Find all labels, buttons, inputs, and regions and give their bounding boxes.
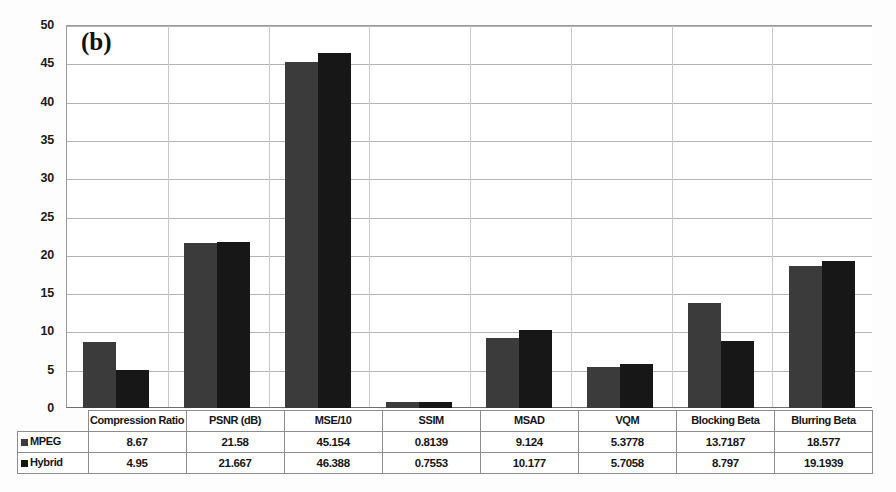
chart-plot-wrapper: 05101520253035404550 (b) (0, 10, 896, 410)
bar-hybrid-vqm (620, 364, 653, 408)
legend-item-hybrid: Hybrid (18, 453, 89, 474)
legend-swatch-icon (21, 460, 28, 467)
table-cell-hybrid-blurring-beta: 19.1939 (774, 453, 872, 474)
bar-hybrid-ssim (419, 402, 452, 408)
legend-item-mpeg: MPEG (18, 432, 89, 453)
bar-hybrid-blocking-beta (721, 341, 754, 408)
bar-hybrid-compression-ratio (116, 370, 149, 408)
bar-mpeg-vqm (587, 367, 620, 408)
table-cell-hybrid-compression-ratio: 4.95 (88, 453, 186, 474)
table-header-mse-10: MSE/10 (284, 411, 382, 432)
y-axis-tick-40: 40 (40, 95, 54, 109)
y-axis-tick-35: 35 (40, 133, 54, 147)
bar-group (570, 25, 671, 408)
bar-hybrid-msad (519, 330, 552, 408)
table-header-compression-ratio: Compression Ratio (88, 411, 186, 432)
table-cell-hybrid-ssim: 0.7553 (382, 453, 480, 474)
data-table: Compression RatioPSNR (dB)MSE/10SSIMMSAD… (17, 410, 873, 474)
table-row: Hybrid4.9521.66746.3880.755310.1775.7058… (18, 453, 873, 474)
bar-mpeg-msad (486, 338, 519, 408)
y-axis-tick-50: 50 (40, 18, 54, 32)
table-cell-hybrid-vqm: 5.7058 (578, 453, 676, 474)
data-table-body: Compression RatioPSNR (dB)MSE/10SSIMMSAD… (18, 411, 873, 474)
figure-panel-b: 05101520253035404550 (b) Compression Rat… (0, 0, 896, 492)
bar-mpeg-compression-ratio (83, 342, 116, 408)
bar-group (268, 25, 369, 408)
table-header-msad: MSAD (480, 411, 578, 432)
table-cell-mpeg-blocking-beta: 13.7187 (676, 432, 774, 453)
table-cell-mpeg-blurring-beta: 18.577 (774, 432, 872, 453)
y-axis-tick-5: 5 (47, 363, 54, 377)
table-header-row: Compression RatioPSNR (dB)MSE/10SSIMMSAD… (18, 411, 873, 432)
y-axis-tick-10: 10 (40, 324, 54, 338)
bar-hybrid-psnr-db- (217, 242, 250, 408)
bar-group (469, 25, 570, 408)
legend-label: MPEG (30, 435, 61, 447)
bar-hybrid-blurring-beta (822, 261, 855, 408)
table-cell-mpeg-vqm: 5.3778 (578, 432, 676, 453)
legend-swatch-icon (21, 439, 28, 446)
bar-group (66, 25, 167, 408)
table-header-blurring-beta: Blurring Beta (774, 411, 872, 432)
y-axis-tick-45: 45 (40, 56, 54, 70)
y-axis-tick-25: 25 (40, 210, 54, 224)
bar-group (167, 25, 268, 408)
table-cell-hybrid-psnr-db-: 21.667 (186, 453, 284, 474)
table-cell-mpeg-msad: 9.124 (480, 432, 578, 453)
table-cell-mpeg-ssim: 0.8139 (382, 432, 480, 453)
bar-mpeg-ssim (386, 402, 419, 408)
table-cell-mpeg-compression-ratio: 8.67 (88, 432, 186, 453)
bar-mpeg-blocking-beta (688, 303, 721, 408)
y-axis-tick-15: 15 (40, 286, 54, 300)
bar-group (771, 25, 872, 408)
table-cell-hybrid-mse-10: 46.388 (284, 453, 382, 474)
table-corner-cell (18, 411, 89, 432)
bar-hybrid-mse-10 (318, 53, 351, 408)
table-header-psnr-db-: PSNR (dB) (186, 411, 284, 432)
y-axis-tick-30: 30 (40, 171, 54, 185)
bar-series-layer (66, 25, 872, 408)
table-header-ssim: SSIM (382, 411, 480, 432)
bar-mpeg-mse-10 (285, 62, 318, 408)
bar-mpeg-psnr-db- (184, 243, 217, 408)
bar-group (368, 25, 469, 408)
bar-mpeg-blurring-beta (789, 266, 822, 408)
table-row: MPEG8.6721.5845.1540.81399.1245.377813.7… (18, 432, 873, 453)
table-cell-mpeg-psnr-db-: 21.58 (186, 432, 284, 453)
bar-group (671, 25, 772, 408)
y-axis: 05101520253035404550 (0, 10, 60, 408)
table-header-blocking-beta: Blocking Beta (676, 411, 774, 432)
legend-label: Hybrid (30, 456, 63, 468)
table-cell-hybrid-msad: 10.177 (480, 453, 578, 474)
table-cell-hybrid-blocking-beta: 8.797 (676, 453, 774, 474)
table-cell-mpeg-mse-10: 45.154 (284, 432, 382, 453)
table-header-vqm: VQM (578, 411, 676, 432)
y-axis-tick-20: 20 (40, 248, 54, 262)
